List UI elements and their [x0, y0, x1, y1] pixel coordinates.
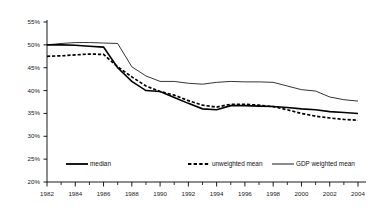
x-axis-tick-label: 1992 — [175, 190, 201, 197]
y-axis-tick-label: 35% — [14, 109, 40, 116]
x-axis-tick-label: 2004 — [345, 190, 371, 197]
x-axis-ticks — [47, 182, 358, 187]
y-axis-tick-label: 50% — [14, 41, 40, 48]
y-axis-ticks — [44, 22, 48, 182]
legend-label-unweighted-mean: unweighted mean — [212, 160, 262, 167]
series-line-median — [47, 45, 358, 114]
legend-label-gdp-weighted-mean: GDP weighted mean — [296, 160, 355, 167]
x-axis-tick-label: 2002 — [317, 190, 343, 197]
x-axis-tick-label: 1986 — [91, 190, 117, 197]
x-axis-tick-label: 1988 — [119, 190, 145, 197]
chart-canvas — [0, 0, 376, 215]
x-axis-tick-label: 2000 — [288, 190, 314, 197]
x-axis-tick-label: 1996 — [232, 190, 258, 197]
series-line-gdp-weighted-mean — [47, 43, 358, 102]
y-axis-tick-label: 40% — [14, 87, 40, 94]
y-axis-tick-label: 20% — [14, 178, 40, 185]
y-axis-tick-label: 55% — [14, 18, 40, 25]
x-axis-tick-label: 1998 — [260, 190, 286, 197]
y-axis-tick-label: 30% — [14, 132, 40, 139]
legend-label-median: median — [90, 160, 111, 167]
y-axis-tick-label: 45% — [14, 64, 40, 71]
y-axis-tick-label: 25% — [14, 155, 40, 162]
x-axis-tick-label: 1984 — [62, 190, 88, 197]
x-axis-tick-label: 1982 — [34, 190, 60, 197]
x-axis-tick-label: 1994 — [204, 190, 230, 197]
x-axis-tick-label: 1990 — [147, 190, 173, 197]
line-chart: 20%25%30%35%40%45%50%55% 198219841986198… — [0, 0, 376, 215]
chart-series-group — [47, 43, 358, 121]
series-line-unweighted-mean — [47, 54, 358, 120]
